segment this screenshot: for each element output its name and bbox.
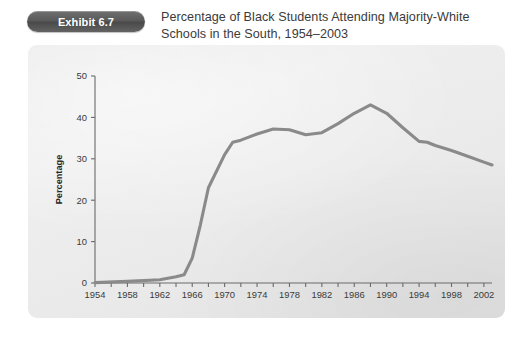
exhibit-title-line-2: Schools in the South, 1954–2003 xyxy=(161,26,506,43)
chart-panel xyxy=(28,45,505,318)
exhibit-title: Percentage of Black Students Attending M… xyxy=(161,9,506,42)
exhibit-figure: Exhibit 6.7 Percentage of Black Students… xyxy=(0,0,526,337)
exhibit-header: Exhibit 6.7 Percentage of Black Students… xyxy=(0,0,526,46)
panel-sheen xyxy=(28,45,505,318)
exhibit-title-line-1: Percentage of Black Students Attending M… xyxy=(161,9,506,26)
exhibit-number-badge: Exhibit 6.7 xyxy=(27,11,145,32)
